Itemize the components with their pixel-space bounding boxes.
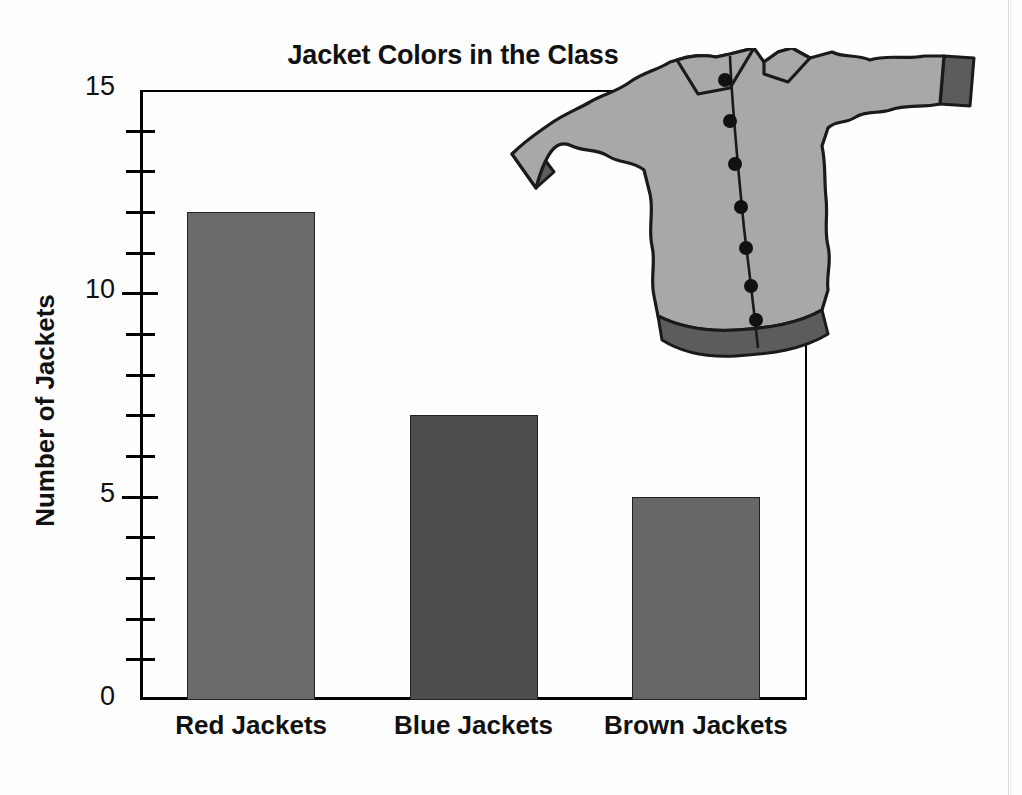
y-axis-tick-label: 0	[5, 681, 115, 712]
y-axis-minor-tick	[126, 333, 155, 336]
y-axis-tick-label: 15	[5, 71, 115, 102]
bar-blue-jackets	[410, 415, 538, 700]
x-axis-label-brown-jackets: Brown Jackets	[566, 710, 826, 741]
y-axis-major-tick	[122, 292, 158, 295]
page-canvas: Jacket Colors in the Class Number of Jac…	[0, 0, 1022, 795]
y-axis-minor-tick	[126, 618, 155, 621]
bar-red-jackets	[187, 212, 315, 700]
y-axis-minor-tick	[126, 414, 155, 417]
jacket-right-sleeve-cuff	[940, 56, 974, 106]
x-axis-label-blue-jackets: Blue Jackets	[344, 710, 604, 741]
x-axis-label-red-jackets: Red Jackets	[121, 710, 381, 741]
y-axis-title: Number of Jackets	[30, 261, 61, 561]
y-axis-minor-tick	[126, 577, 155, 580]
y-axis-minor-tick	[126, 455, 155, 458]
bar-chart-figure: Jacket Colors in the Class Number of Jac…	[0, 0, 1022, 795]
chart-title: Jacket Colors in the Class	[243, 40, 663, 71]
y-axis-minor-tick	[126, 130, 155, 133]
y-axis-tick-label: 5	[5, 478, 115, 509]
y-axis-minor-tick	[126, 658, 155, 661]
y-axis-tick-label: 10	[5, 274, 115, 305]
y-axis-minor-tick	[126, 170, 155, 173]
y-axis-minor-tick	[126, 536, 155, 539]
y-axis-minor-tick	[126, 211, 155, 214]
y-axis-minor-tick	[126, 252, 155, 255]
y-axis-minor-tick	[126, 374, 155, 377]
bar-brown-jackets	[632, 497, 760, 700]
y-axis-major-tick	[122, 496, 158, 499]
